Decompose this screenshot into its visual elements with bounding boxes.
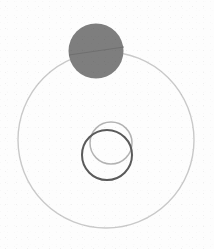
figure-canvas bbox=[0, 0, 214, 249]
shapes-svg bbox=[0, 0, 214, 249]
